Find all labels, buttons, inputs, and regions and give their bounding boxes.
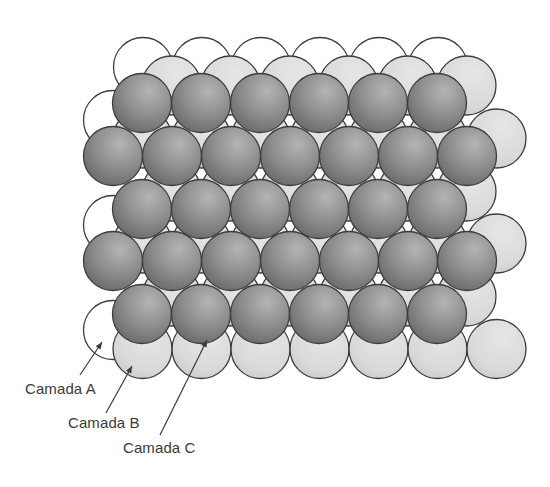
sphere-layer-c [261, 232, 320, 291]
sphere-layer-c [408, 285, 467, 344]
sphere-layer-c [172, 285, 231, 344]
sphere-layer-c [349, 285, 408, 344]
label-camada-a: Camada A [25, 381, 96, 396]
sphere-layer-c [349, 180, 408, 239]
sphere-layer-c [320, 127, 379, 186]
sphere-layer-c [408, 74, 467, 133]
sphere-layer-c [143, 232, 202, 291]
sphere-layer-c [438, 127, 497, 186]
sphere-layer-c [320, 232, 379, 291]
sphere-layer-c [84, 127, 143, 186]
label-camada-c: Camada C [123, 440, 196, 455]
sphere-layer-c [113, 180, 172, 239]
sphere-layer-c [113, 74, 172, 133]
sphere-layer-c [231, 74, 290, 133]
sphere-layer-c [408, 180, 467, 239]
sphere-layer-c [113, 285, 172, 344]
label-camada-b: Camada B [68, 415, 140, 430]
sphere-layer-c [231, 285, 290, 344]
sphere-layer-c [349, 74, 408, 133]
sphere-layer-b [467, 320, 526, 379]
sphere-layer-c [202, 232, 261, 291]
sphere-layer-c [379, 232, 438, 291]
sphere-layer-c [172, 74, 231, 133]
sphere-layer-c [290, 180, 349, 239]
sphere-layer-c [261, 127, 320, 186]
sphere-layer-c [172, 180, 231, 239]
sphere-layer-c [290, 74, 349, 133]
sphere-layer-c [202, 127, 261, 186]
sphere-layer-c [438, 232, 497, 291]
sphere-layer-c [231, 180, 290, 239]
arrow-b [106, 366, 132, 413]
sphere-layer-c [290, 285, 349, 344]
sphere-layer-c [143, 127, 202, 186]
sphere-layer-c [84, 232, 143, 291]
sphere-layer-c [379, 127, 438, 186]
